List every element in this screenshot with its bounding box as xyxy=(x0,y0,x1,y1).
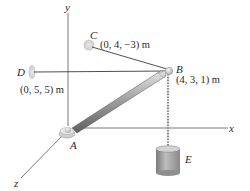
point-e-label: E xyxy=(185,154,192,165)
weight-e xyxy=(156,146,180,176)
z-axis-label: z xyxy=(14,178,18,189)
point-d-label: D xyxy=(17,67,25,78)
point-c-coord: (0, 4, −3) m xyxy=(100,40,150,51)
cable-db xyxy=(34,71,168,72)
boom-ab xyxy=(72,70,167,133)
y-axis-label: y xyxy=(65,2,70,13)
point-b-coord: (4, 3, 1) m xyxy=(176,75,220,86)
statics-diagram xyxy=(0,0,250,191)
x-axis-label: x xyxy=(229,123,234,134)
z-axis xyxy=(21,136,62,178)
point-a-label: A xyxy=(70,140,77,151)
point-d-coord: (0, 5, 5) m xyxy=(20,85,64,96)
wall-support-c xyxy=(84,40,95,51)
joint-b xyxy=(165,67,173,75)
point-c-label: C xyxy=(90,30,97,41)
